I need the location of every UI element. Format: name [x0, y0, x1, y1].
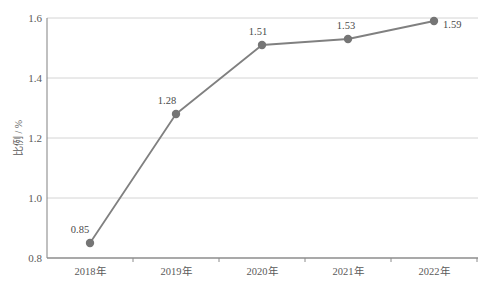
data-label-2020: 1.51: [249, 26, 267, 37]
data-point-2020: [258, 41, 266, 49]
data-point-2022: [430, 17, 438, 25]
data-point-2019: [172, 110, 180, 118]
data-label-2018: 0.85: [71, 224, 89, 235]
chart-background: [0, 0, 487, 285]
x-tick-label-2018: 2018年: [75, 265, 106, 277]
data-point-2018: [86, 239, 94, 247]
data-point-2021: [344, 35, 352, 43]
data-label-2021: 1.53: [337, 20, 355, 31]
data-label-2022: 1.59: [443, 19, 461, 30]
chart-canvas: 1.6 1.4 1.2 1.0 0.8 2018年 2019年 2020年 20…: [0, 0, 487, 285]
y-axis-title: 比例 / %: [12, 120, 24, 156]
line-chart: 1.6 1.4 1.2 1.0 0.8 2018年 2019年 2020年 20…: [0, 0, 487, 285]
y-tick-label-1.0: 1.0: [28, 192, 42, 204]
x-tick-label-2021: 2021年: [333, 265, 364, 277]
y-tick-label-1.6: 1.6: [28, 12, 42, 24]
x-tick-label-2019: 2019年: [161, 265, 192, 277]
x-tick-label-2022: 2022年: [419, 265, 450, 277]
y-tick-label-0.8: 0.8: [28, 252, 42, 264]
data-label-2019: 1.28: [158, 95, 176, 106]
x-tick-label-2020: 2020年: [247, 265, 278, 277]
y-tick-label-1.2: 1.2: [28, 132, 42, 144]
y-tick-label-1.4: 1.4: [28, 72, 42, 84]
